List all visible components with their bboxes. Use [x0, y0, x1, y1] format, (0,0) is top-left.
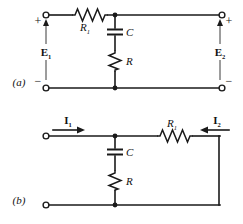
- capacitor-c-b-label: C: [126, 146, 134, 158]
- source-e2-plus-sign: +: [226, 14, 233, 28]
- source-e1-label: E1: [41, 46, 52, 60]
- terminal-a-top-left: [43, 12, 49, 18]
- node-a-mid-bottom: [113, 86, 118, 91]
- terminal-b-top-left: [43, 133, 49, 139]
- resistor-r1-b-label: R1: [166, 117, 177, 131]
- current-i2-label: I2: [213, 114, 221, 128]
- resistor-r1-a-symbol: [72, 9, 108, 21]
- source-e1-arrowhead-icon: [43, 19, 49, 26]
- source-e1-minus-sign: −: [35, 74, 42, 88]
- resistor-r-a-label: R: [125, 55, 133, 67]
- current-i2-arrowhead-icon: [200, 127, 208, 134]
- panel-b-label: (b): [13, 194, 26, 207]
- resistor-r-b-label: R: [125, 175, 133, 187]
- terminal-b-bottom-left: [43, 202, 49, 208]
- circuit-figure: R1 C R E1 + − E2 + −: [0, 0, 243, 224]
- source-e2-label: E2: [215, 46, 226, 60]
- resistor-r-a-symbol: [109, 50, 121, 72]
- panel-a: R1 C R E1 + − E2 + −: [13, 9, 233, 91]
- current-i1-arrowhead-icon: [77, 127, 85, 134]
- capacitor-c-a-label: C: [126, 26, 134, 38]
- terminal-a-bottom-right: [219, 85, 225, 91]
- panel-b: R1 C R I1 I2 (b): [13, 114, 229, 208]
- resistor-r-b-symbol: [109, 170, 121, 191]
- terminal-a-bottom-left: [43, 85, 49, 91]
- node-b-mid-top: [113, 134, 118, 139]
- node-a-mid-top: [113, 13, 118, 18]
- node-b-mid-bottom: [113, 203, 118, 208]
- resistor-r1-b-symbol: [157, 130, 193, 142]
- source-e2-arrowhead-icon: [217, 19, 223, 26]
- panel-a-label: (a): [13, 76, 26, 89]
- resistor-r1-a-label: R1: [79, 21, 90, 35]
- source-e1-plus-sign: +: [35, 14, 42, 28]
- source-e2-minus-sign: −: [226, 74, 233, 88]
- current-i1-label: I1: [64, 114, 72, 128]
- terminal-a-top-right: [219, 12, 225, 18]
